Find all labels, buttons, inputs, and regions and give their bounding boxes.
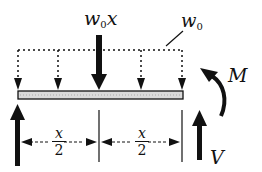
shear-label: V	[210, 148, 224, 167]
resultant-force-label: w0x	[84, 9, 117, 30]
shear-force-v-arrow	[192, 110, 207, 160]
distributed-load-label: w0	[181, 12, 203, 32]
dimension-lines	[21, 110, 182, 162]
right-dimension-label: x 2	[135, 126, 149, 157]
resultant-force-arrow	[91, 35, 107, 90]
moment-label: M	[228, 66, 247, 85]
left-shear-arrow	[10, 104, 25, 166]
left-dimension-label: x 2	[52, 126, 66, 157]
distributed-load-leader-line	[166, 31, 183, 46]
moment-m-arrow	[200, 68, 224, 116]
